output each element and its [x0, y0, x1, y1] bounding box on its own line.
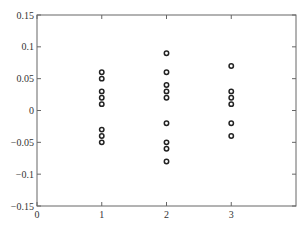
data-point: [164, 121, 168, 125]
x-axis: 0123: [35, 15, 234, 220]
data-point: [100, 134, 104, 138]
data-point: [164, 70, 168, 74]
data-point: [164, 159, 168, 163]
data-point: [164, 147, 168, 151]
data-point: [229, 64, 233, 68]
data-point: [164, 96, 168, 100]
data-point: [229, 89, 233, 93]
data-point: [100, 127, 104, 131]
x-tick-label: 3: [229, 209, 234, 220]
data-point: [229, 102, 233, 106]
data-point: [164, 51, 168, 55]
y-tick-label: −0.1: [16, 169, 34, 180]
data-markers: [100, 51, 234, 164]
y-tick-label: 0: [29, 105, 34, 116]
data-point: [100, 102, 104, 106]
x-tick-label: 1: [99, 209, 104, 220]
y-axis: 0.150.10.050−0.05−0.1−0.15: [11, 10, 296, 212]
data-point: [164, 83, 168, 87]
data-point: [164, 89, 168, 93]
data-point: [100, 140, 104, 144]
data-point: [100, 76, 104, 80]
data-point: [164, 140, 168, 144]
y-tick-label: −0.15: [11, 201, 34, 212]
y-tick-label: −0.05: [11, 137, 34, 148]
scatter-chart: 0.150.10.050−0.05−0.1−0.15 0123: [0, 0, 308, 235]
data-point: [100, 96, 104, 100]
y-tick-label: 0.05: [17, 73, 35, 84]
data-point: [229, 96, 233, 100]
y-tick-label: 0.1: [22, 41, 35, 52]
data-point: [100, 70, 104, 74]
data-point: [229, 121, 233, 125]
plot-area: [37, 15, 296, 206]
x-tick-label: 0: [35, 209, 40, 220]
data-point: [100, 89, 104, 93]
x-tick-label: 2: [164, 209, 169, 220]
axes-frame: [37, 15, 296, 206]
y-tick-label: 0.15: [17, 10, 35, 21]
data-point: [229, 134, 233, 138]
